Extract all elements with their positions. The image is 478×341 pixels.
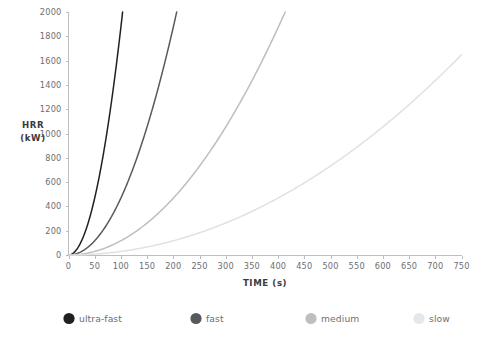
legend: ultra-fastfastmediumslow (63, 313, 450, 324)
x-tick-label: 500 (322, 261, 338, 271)
y-tick-label: 600 (45, 177, 61, 187)
x-axis-ticks: 0501001502002503003504004505005506006507… (66, 256, 470, 271)
x-tick-label: 700 (427, 261, 443, 271)
legend-label-medium[interactable]: medium (321, 313, 359, 324)
legend-swatch-slow[interactable] (413, 313, 424, 324)
y-axis-title-line2: (kW) (20, 133, 45, 143)
y-tick-label: 1400 (40, 80, 62, 90)
curve-fast (69, 12, 177, 255)
legend-label-ultra-fast[interactable]: ultra-fast (79, 313, 122, 324)
y-tick-label: 200 (45, 226, 61, 236)
x-tick-label: 350 (244, 261, 260, 271)
x-tick-label: 50 (89, 261, 100, 271)
x-tick-label: 300 (218, 261, 234, 271)
y-tick-label: 1800 (40, 31, 62, 41)
legend-swatch-fast[interactable] (190, 313, 201, 324)
y-tick-label: 800 (45, 153, 61, 163)
legend-label-fast[interactable]: fast (206, 313, 224, 324)
x-tick-label: 150 (139, 261, 155, 271)
curve-slow (69, 55, 462, 255)
x-tick-label: 600 (375, 261, 391, 271)
curve-ultra-fast (69, 12, 123, 255)
legend-label-slow[interactable]: slow (429, 313, 450, 324)
y-axis-title-line1: HRR (22, 120, 44, 130)
x-tick-label: 400 (270, 261, 286, 271)
x-tick-label: 650 (401, 261, 417, 271)
x-tick-label: 550 (349, 261, 365, 271)
legend-swatch-ultra-fast[interactable] (63, 313, 74, 324)
x-tick-label: 450 (296, 261, 312, 271)
fire-growth-curve-chart: 0200400600800100012001400160018002000 05… (0, 0, 478, 341)
x-tick-label: 100 (113, 261, 129, 271)
y-tick-label: 2000 (40, 7, 62, 17)
data-curves-group (69, 12, 462, 255)
x-axis-title: TIME (s) (243, 278, 287, 288)
y-tick-label: 0 (56, 250, 61, 260)
x-tick-label: 200 (165, 261, 181, 271)
chart-svg: 0200400600800100012001400160018002000 05… (0, 0, 478, 341)
x-tick-label: 0 (66, 261, 71, 271)
legend-swatch-medium[interactable] (305, 313, 316, 324)
y-tick-label: 1200 (40, 104, 62, 114)
axes-group (69, 12, 462, 256)
x-tick-label: 750 (453, 261, 469, 271)
curve-medium (69, 12, 286, 255)
x-tick-label: 250 (191, 261, 207, 271)
y-tick-label: 400 (45, 201, 61, 211)
y-tick-label: 1600 (40, 56, 62, 66)
